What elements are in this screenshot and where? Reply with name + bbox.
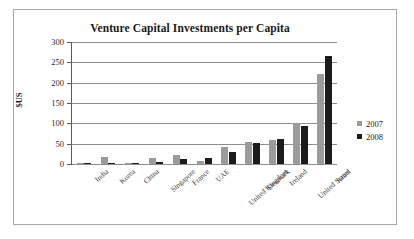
bar-2007 [173,155,180,164]
y-axis-tick [67,42,71,43]
y-axis-tick-label: 300 [36,37,64,47]
bar-2007 [77,163,84,164]
y-axis-tick-label: 100 [36,118,64,128]
y-axis-tick [67,164,71,165]
chart-figure: Venture Capital Investments per Capita $… [0,0,414,239]
bar-2008 [84,163,91,164]
bar-2008 [156,162,163,164]
bar-group [293,42,308,164]
chart-title: Venture Capital Investments per Capita [60,22,320,34]
bar-group [125,42,140,164]
legend-swatch-icon [357,121,362,126]
y-axis-tick-label: 50 [36,139,64,149]
legend-label: 2008 [366,132,383,142]
bar-2007 [125,163,132,164]
y-axis-tick [67,83,71,84]
bar-2008 [325,56,332,164]
bar-group [197,42,212,164]
bar-2007 [245,142,252,164]
bar-2008 [132,163,139,164]
y-axis-tick-label: 200 [36,78,64,88]
y-axis-tick [67,123,71,124]
y-axis-tick [67,103,71,104]
bar-2008 [253,143,260,164]
bar-2007 [317,74,324,164]
bar-2007 [221,147,228,164]
legend-item-2007: 2007 [357,117,399,130]
legend-item-2008: 2008 [357,130,399,143]
bar-2008 [205,158,212,165]
y-axis-tick-label: 0 [36,159,64,169]
y-axis-tick [67,62,71,63]
legend-swatch-icon [357,134,362,139]
bar-group [149,42,164,164]
gridline [72,164,337,165]
bar-2008 [180,159,187,164]
y-axis-tick [67,144,71,145]
legend-label: 2007 [366,119,383,129]
bar-2008 [277,139,284,164]
y-axis-tick-label: 250 [36,57,64,67]
bar-group [317,42,332,164]
bar-group [245,42,260,164]
bar-2007 [149,158,156,164]
bar-group [77,42,92,164]
chart-legend: 20072008 [357,117,399,143]
bar-group [101,42,116,164]
bar-group [269,42,284,164]
bar-2007 [269,140,276,164]
bar-2007 [293,123,300,164]
bar-2008 [301,126,308,164]
plot-area [72,42,337,164]
bar-2008 [108,163,115,164]
y-axis-title: $US [14,78,24,122]
bar-2007 [197,161,204,164]
bar-2007 [101,157,108,164]
bar-2008 [229,152,236,164]
y-axis-tick-label: 150 [36,98,64,108]
bar-group [221,42,236,164]
bar-group [173,42,188,164]
